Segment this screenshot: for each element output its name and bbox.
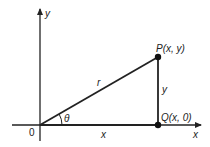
angle-label: θ [64, 113, 70, 124]
origin-label: 0 [29, 127, 35, 138]
segment-op [40, 57, 158, 125]
point-q-label: Q(x, 0) [161, 112, 192, 123]
coordinate-diagram: y x 0 P(x, y) Q(x, 0) r y x θ [0, 0, 210, 147]
point-p-label: P(x, y) [156, 43, 185, 54]
horizontal-leg-label: x [100, 129, 107, 140]
x-axis-label: x [192, 129, 199, 140]
angle-arc [59, 114, 62, 125]
point-p [155, 54, 161, 60]
vertical-leg-label: y [161, 84, 168, 95]
hypotenuse-label: r [97, 77, 101, 88]
y-axis-label: y [44, 8, 51, 19]
